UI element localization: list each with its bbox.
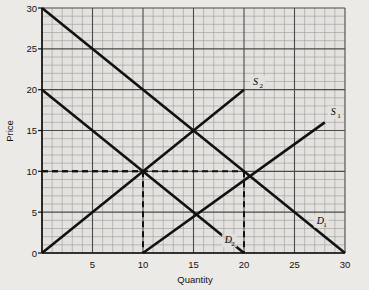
y-axis-title: Price [4, 120, 15, 142]
x-tick-label-5: 5 [90, 259, 95, 270]
y-tick-label-10: 10 [26, 166, 37, 177]
curve-label-s1: S1 [328, 106, 343, 120]
x-tick-label-15: 15 [188, 259, 199, 270]
curve-label-d1: D1 [314, 215, 329, 229]
chart-svg: 051015202530 51015202530 Quantity Price … [0, 0, 369, 290]
y-tick-label-30: 30 [26, 3, 37, 14]
svg-text:1: 1 [337, 112, 341, 120]
y-tick-label-25: 25 [26, 43, 37, 54]
y-tick-label-5: 5 [32, 207, 37, 218]
x-tick-label-20: 20 [239, 259, 250, 270]
svg-text:2: 2 [231, 240, 235, 248]
y-tick-label-0: 0 [32, 248, 37, 259]
supply-demand-chart: 051015202530 51015202530 Quantity Price … [0, 0, 369, 290]
svg-text:2: 2 [260, 82, 264, 90]
x-tick-label-25: 25 [289, 259, 300, 270]
y-tick-label-15: 15 [26, 125, 37, 136]
curve-label-d2: D2 [222, 234, 237, 248]
svg-text:S: S [253, 76, 258, 87]
svg-text:1: 1 [323, 221, 327, 229]
y-tick-label-20: 20 [26, 84, 37, 95]
x-tick-label-10: 10 [138, 259, 149, 270]
svg-text:S: S [331, 106, 336, 117]
curve-label-s2: S2 [250, 76, 265, 90]
x-tick-label-30: 30 [340, 259, 351, 270]
x-axis-title: Quantity [177, 274, 213, 285]
